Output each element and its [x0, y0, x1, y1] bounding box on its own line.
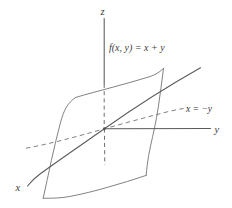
- zero-level-line: [26, 108, 188, 149]
- surface-equation-label: f(x, y) = x + y: [109, 42, 165, 54]
- z-axis-label: z: [100, 6, 105, 17]
- plane-edge-top: [76, 68, 164, 97]
- x-axis-label: x: [15, 182, 21, 193]
- x-axis: [28, 68, 201, 186]
- plane-edge-bottom: [43, 175, 146, 198]
- origin-point: [103, 127, 106, 130]
- plane-parallelogram: [43, 68, 163, 198]
- figure-container: z y x f(x, y) = x + y x = −y: [0, 0, 232, 208]
- plane-edge-right: [146, 68, 163, 175]
- y-axis-label: y: [214, 124, 220, 135]
- plane-edge-left: [43, 98, 75, 199]
- plane-diagram-svg: z y x f(x, y) = x + y x = −y: [0, 0, 232, 208]
- zero-level-line-label: x = −y: [185, 104, 213, 114]
